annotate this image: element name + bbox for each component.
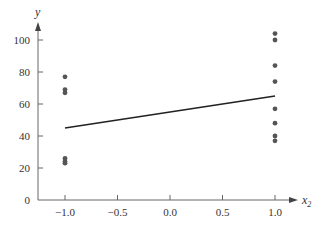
data-point [273, 138, 278, 143]
y-ticks: 020406080100 [14, 34, 44, 206]
scatter-chart: 020406080100 −1.0−0.50.00.51.0 y x2 [0, 0, 327, 228]
data-point [273, 79, 278, 84]
x-axis-label-subscript: 2 [307, 200, 311, 209]
data-point [63, 74, 68, 79]
axes: 020406080100 −1.0−0.50.00.51.0 y x2 [14, 5, 312, 218]
regression-line [65, 96, 275, 128]
y-tick-label: 40 [19, 130, 31, 142]
x-tick-label: −1.0 [55, 206, 75, 218]
y-axis-label: y [34, 5, 41, 19]
x-axis-label: x2 [301, 193, 311, 209]
y-tick-label: 60 [19, 98, 31, 110]
data-point [273, 38, 278, 43]
data-point [273, 121, 278, 126]
data-point [273, 106, 278, 111]
x-tick-label: 0.5 [216, 206, 230, 218]
x-tick-label: 1.0 [268, 206, 282, 218]
x-tick-label: −0.5 [108, 206, 128, 218]
y-tick-label: 80 [19, 66, 31, 78]
data-point [273, 31, 278, 36]
x-axis-arrow-icon [289, 197, 298, 203]
data-point [273, 134, 278, 139]
data-point [273, 63, 278, 68]
y-tick-label: 0 [25, 194, 31, 206]
y-tick-label: 20 [19, 162, 31, 174]
x-tick-label: 0.0 [163, 206, 177, 218]
data-point [63, 161, 68, 166]
y-axis-arrow-icon [35, 22, 41, 31]
x-ticks: −1.0−0.50.00.51.0 [55, 195, 282, 218]
data-point [63, 90, 68, 95]
plot-area [63, 31, 278, 165]
y-tick-label: 100 [14, 34, 31, 46]
